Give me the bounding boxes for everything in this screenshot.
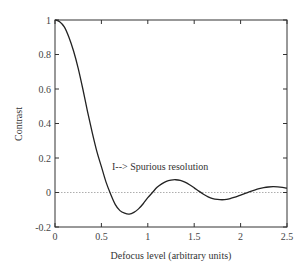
contrast-curve [55, 20, 287, 214]
x-axis-label: Defocus level (arbitrary units) [111, 250, 232, 262]
contrast-vs-defocus-chart: 00.511.522.5 -0.200.20.40.60.81 Defocus … [0, 0, 305, 272]
x-tick-label: 1 [145, 231, 150, 242]
x-axis-ticks: 00.511.522.5 [53, 20, 294, 242]
y-axis-label: Contrast [13, 107, 24, 141]
x-tick-label: 2 [238, 231, 243, 242]
y-tick-label: 0.2 [39, 153, 52, 164]
x-tick-label: 0.5 [95, 231, 108, 242]
y-tick-label: 1 [46, 15, 51, 26]
y-tick-label: 0.6 [39, 84, 52, 95]
x-tick-label: 1.5 [188, 231, 201, 242]
y-tick-label: 0.8 [39, 49, 52, 60]
y-tick-label: 0 [46, 187, 51, 198]
x-tick-label: 2.5 [281, 231, 294, 242]
spurious-resolution-annotation: I--> Spurious resolution [112, 161, 208, 172]
y-tick-label: 0.4 [39, 118, 52, 129]
x-tick-label: 0 [53, 231, 58, 242]
y-tick-label: -0.2 [35, 222, 51, 233]
